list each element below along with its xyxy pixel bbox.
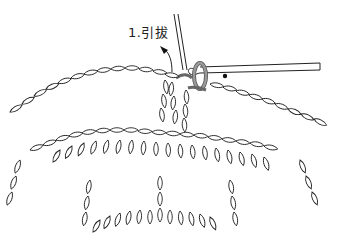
stitch-illustration: [0, 0, 338, 249]
crochet-hook: [188, 63, 320, 75]
working-yarn: [174, 14, 187, 70]
chain-arc-right: [210, 82, 328, 127]
chain-arc-left: [9, 66, 179, 114]
stitch-band: [51, 139, 270, 171]
bottom-arc: [91, 210, 218, 233]
crochet-diagram: 1.引拔: [0, 0, 338, 249]
insertion-point-dot: [223, 74, 227, 78]
step-label: 1.引拔: [128, 22, 168, 41]
lower-stitches: [5, 159, 319, 226]
double-crochet-column: [159, 80, 189, 132]
pointer-arrow: [160, 46, 172, 72]
